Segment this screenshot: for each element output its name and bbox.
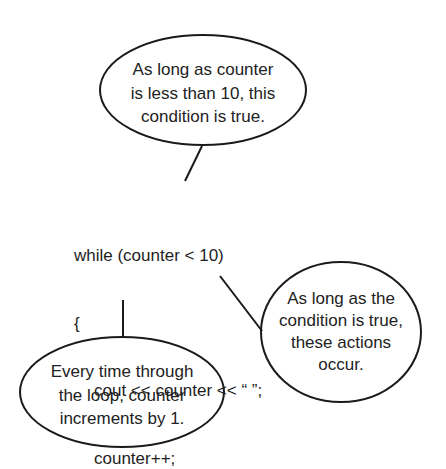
callout-condition-leader bbox=[185, 146, 202, 181]
code-line-while: while (counter < 10) bbox=[74, 245, 262, 268]
callout-increment-text: Every time through the loop, counter inc… bbox=[22, 360, 222, 431]
callout-increment-line: the loop, counter bbox=[22, 384, 222, 408]
callout-body-line: occur. bbox=[266, 354, 416, 376]
callout-increment-line: Every time through bbox=[22, 360, 222, 384]
callout-condition-line: is less than 10, this bbox=[103, 82, 303, 106]
callout-body-text: As long as the condition is true, these … bbox=[266, 288, 416, 376]
callout-body-line: As long as the bbox=[266, 288, 416, 310]
code-line-open-brace: { bbox=[74, 313, 262, 336]
callout-condition-line: As long as counter bbox=[103, 58, 303, 82]
callout-condition-text: As long as counter is less than 10, this… bbox=[103, 58, 303, 129]
callout-increment-line: increments by 1. bbox=[22, 407, 222, 431]
callout-condition-line: condition is true. bbox=[103, 105, 303, 129]
code-line-increment: counter++; bbox=[74, 448, 262, 469]
callout-body-line: condition is true, bbox=[266, 310, 416, 332]
callout-body-line: these actions bbox=[266, 332, 416, 354]
